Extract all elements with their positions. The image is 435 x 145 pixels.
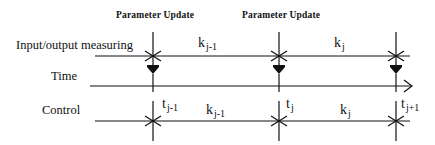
time-mark-2-base: t — [286, 96, 290, 111]
down-arrow-bar-2 — [273, 65, 285, 67]
timing-diagram: Parameter Update Parameter Update Input/… — [0, 0, 435, 145]
control-interval-2-sub: j — [348, 108, 351, 119]
down-arrow-bar-3 — [390, 65, 402, 67]
io-interval-label-1: kj-1 — [198, 36, 217, 52]
control-interval-label-2: kj — [340, 103, 351, 119]
control-interval-1-sub: j-1 — [214, 108, 225, 119]
io-interval-1-sub: j-1 — [206, 41, 217, 52]
control-interval-label-1: kj-1 — [206, 103, 225, 119]
io-interval-2-base: k — [334, 35, 341, 50]
row-label-time: Time — [51, 70, 77, 83]
row-label-control: Control — [42, 104, 80, 117]
down-arrow-icon-1 — [147, 67, 159, 74]
time-mark-label-3: tj+1 — [401, 97, 419, 113]
down-arrow-icon-2 — [273, 67, 285, 74]
parameter-update-label-2: Parameter Update — [242, 11, 320, 21]
control-interval-2-base: k — [340, 102, 347, 117]
time-mark-3-base: t — [401, 96, 405, 111]
time-mark-3-sub: j+1 — [406, 102, 419, 113]
io-interval-2-sub: j — [342, 41, 345, 52]
down-arrow-bar-1 — [147, 65, 159, 67]
row-label-io: Input/output measuring — [16, 39, 133, 52]
time-mark-1-sub: j-1 — [167, 102, 178, 113]
time-mark-label-1: tj-1 — [162, 97, 178, 113]
time-mark-1-base: t — [162, 96, 166, 111]
control-interval-1-base: k — [206, 102, 213, 117]
down-arrow-icon-3 — [390, 67, 402, 74]
io-interval-label-2: kj — [334, 36, 345, 52]
io-interval-1-base: k — [198, 35, 205, 50]
time-mark-2-sub: j — [291, 102, 294, 113]
time-mark-label-2: tj — [286, 97, 294, 113]
parameter-update-label-1: Parameter Update — [116, 11, 194, 21]
